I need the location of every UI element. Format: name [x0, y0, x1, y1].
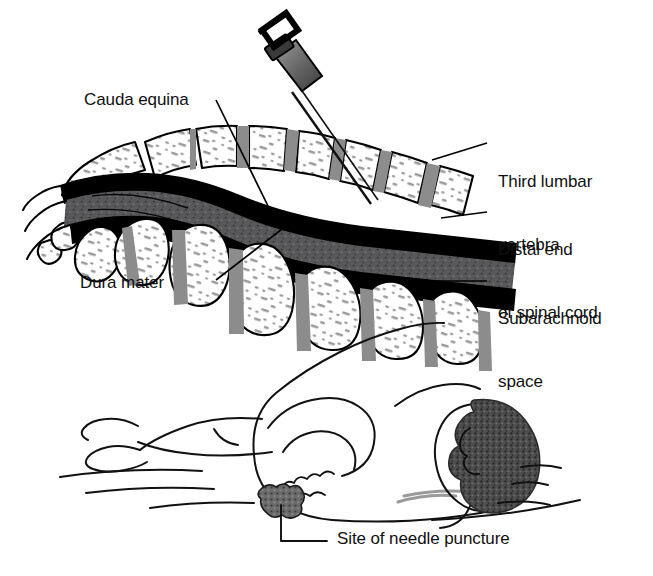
needle-hub-top-bar [259, 15, 285, 33]
label-third-lumbar-line1: Third lumbar [498, 171, 592, 192]
dural-sac-taper-1 [23, 186, 60, 210]
label-distal-end-line1: Distal end [498, 239, 598, 260]
bed-sheet-line-3 [150, 503, 254, 508]
spinous-process-l5 [145, 129, 196, 178]
patient-hip-curve [268, 398, 375, 476]
spinous-process-l3 [249, 126, 287, 171]
bed-sheet-line-1 [60, 470, 202, 477]
label-site-of-needle-puncture: Site of needle puncture [337, 528, 510, 549]
label-subarachnoid-space: Subarachnoid space [498, 266, 602, 413]
label-subarachnoid-line2: space [498, 371, 602, 392]
label-cauda-equina: Cauda equina [84, 89, 189, 110]
bed-sheet-line-2 [86, 488, 214, 493]
patient-thigh-lower [138, 442, 272, 456]
interlaminar-gap-1 [190, 129, 196, 170]
leader-third-lumbar [432, 143, 487, 160]
patient-thigh-upper [140, 418, 262, 450]
patient-foot-lower [82, 419, 138, 440]
label-subarachnoid-line1: Subarachnoid [498, 308, 602, 329]
intervertebral-disc-7 [478, 310, 492, 371]
label-dura-mater: Dura mater [80, 272, 164, 293]
patient-gluteal-fold [283, 431, 355, 470]
patient-foot-upper [86, 446, 147, 472]
spine-section-panel [23, 13, 517, 371]
patient-hair [449, 399, 540, 513]
spinous-process-l2 [296, 131, 335, 179]
patient-knee-crease [214, 429, 238, 445]
patient-shoulder-top [395, 384, 480, 406]
